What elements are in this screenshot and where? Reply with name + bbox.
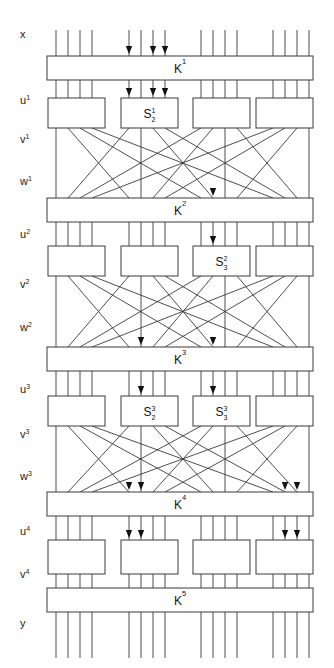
stage-label-w2: w2 <box>19 321 32 333</box>
arrow-head <box>162 46 168 54</box>
arrow-head <box>126 88 132 96</box>
arrow-head <box>282 482 288 490</box>
sbox-S4_1[interactable] <box>48 540 105 574</box>
network-svg: K1K2K3K4K5 S12S23S32S33 xu1v1w1u2v2w2u3v… <box>0 0 334 668</box>
sbox-S1_3[interactable] <box>193 98 250 128</box>
stage-label-y: y <box>20 617 26 629</box>
arrow-head <box>210 236 216 244</box>
stage-label-w1: w1 <box>19 175 32 187</box>
permutation-layer <box>56 128 309 492</box>
stage-label-v4: v4 <box>20 568 30 580</box>
arrow-head <box>126 46 132 54</box>
arrow-head <box>138 482 144 490</box>
arrow-head <box>138 386 144 394</box>
sbox-S3_1[interactable] <box>48 396 105 426</box>
stage-label-x: x <box>20 28 26 40</box>
stage-label-v1: v1 <box>20 133 30 145</box>
sbox-S1_1[interactable] <box>48 98 105 128</box>
stage-label-v3: v3 <box>20 428 30 440</box>
arrow-head <box>282 530 288 538</box>
sbox-S4_2[interactable] <box>121 540 178 574</box>
sbox-S2_4[interactable] <box>256 246 313 276</box>
stage-label-u4: u4 <box>20 525 30 537</box>
arrow-head <box>150 46 156 54</box>
stage-label-w3: w3 <box>19 470 32 482</box>
cipher-network-diagram: K1K2K3K4K5 S12S23S32S33 xu1v1w1u2v2w2u3v… <box>0 0 334 668</box>
arrow-head <box>294 482 300 490</box>
stage-label-u2: u2 <box>20 228 30 240</box>
sbox-S3_4[interactable] <box>256 396 313 426</box>
stage-label-u3: u3 <box>20 383 30 395</box>
arrow-head <box>150 88 156 96</box>
sbox-S2_2[interactable] <box>121 246 178 276</box>
sbox-S2_1[interactable] <box>48 246 105 276</box>
stage-label-u1: u1 <box>20 94 30 106</box>
arrow-head <box>294 530 300 538</box>
arrow-head <box>138 530 144 538</box>
sbox-S1_4[interactable] <box>256 98 313 128</box>
arrow-head <box>162 88 168 96</box>
sbox-S4_3[interactable] <box>193 540 250 574</box>
arrow-head <box>126 482 132 490</box>
arrow-head <box>126 530 132 538</box>
arrow-head <box>210 386 216 394</box>
sbox-S4_4[interactable] <box>256 540 313 574</box>
stage-label-v2: v2 <box>20 278 30 290</box>
stage-label-layer: xu1v1w1u2v2w2u3v3w3u4v4y <box>19 28 32 629</box>
arrow-head <box>138 337 144 345</box>
